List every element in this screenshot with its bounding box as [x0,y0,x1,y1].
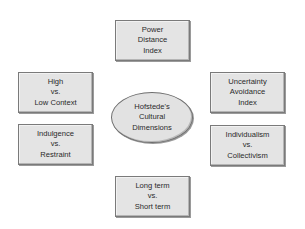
node-label-line: vs. [148,191,158,201]
center-label-line: Cultural [139,112,165,122]
node-label-line: Uncertainty [228,77,266,87]
center-label-line: Dimensions [132,123,172,133]
node-long-term-vs-short-term: Long term vs. Short term [115,176,190,217]
node-label-line: Restraint [40,150,70,160]
node-label-line: Individualism [226,130,270,140]
node-label-line: Index [143,46,162,56]
node-label-line: Avoidance [230,87,265,97]
node-label-line: Long term [135,181,169,191]
node-label-line: vs. [51,139,61,149]
node-label-line: vs. [51,87,61,97]
node-indulgence-vs-restraint: Indulgence vs. Restraint [18,124,93,165]
center-node-hofstedes-cultural-dimensions: Hofstede's Cultural Dimensions [111,92,193,143]
node-individualism-vs-collectivism: Individualism vs. Collectivism [210,125,285,166]
node-uncertainty-avoidance-index: Uncertainty Avoidance Index [210,72,285,113]
node-label-line: Distance [138,35,168,45]
node-label-line: vs. [243,140,253,150]
node-label-line: Power [142,25,164,35]
node-label-line: Low Context [34,98,76,108]
node-label-line: Index [238,98,257,108]
node-label-line: Collectivism [227,151,268,161]
diagram-canvas: Power Distance Index High vs. Low Contex… [0,0,305,229]
node-label-line: Short term [135,202,170,212]
center-label-line: Hofstede's [134,102,170,112]
node-label-line: Indulgence [37,129,74,139]
node-power-distance-index: Power Distance Index [115,20,190,61]
node-high-vs-low-context: High vs. Low Context [18,72,93,113]
node-label-line: High [48,77,64,87]
